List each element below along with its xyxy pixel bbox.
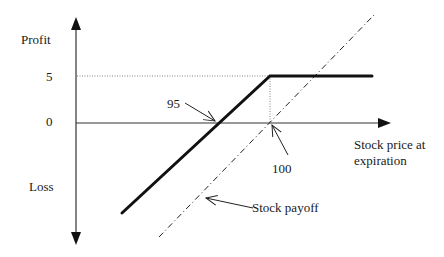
- y-axis: [71, 17, 81, 245]
- profit-line: [122, 76, 372, 213]
- arrow-up-icon: [71, 17, 81, 30]
- x-axis-label-line1: Stock price at: [354, 137, 425, 152]
- x-axis: [76, 118, 391, 128]
- x-axis-label-line2: expiration: [354, 153, 407, 168]
- arrow-down-icon: [71, 232, 81, 245]
- strike-label: 100: [272, 161, 292, 176]
- y-axis-top-label: Profit: [21, 32, 51, 47]
- diagram-canvas: [0, 0, 444, 257]
- stock-payoff-label: Stock payoff: [252, 200, 319, 215]
- stock-payoff-arrow: [206, 198, 253, 208]
- strike-arrow: [272, 125, 288, 155]
- y-tick-0: 0: [46, 114, 53, 129]
- payoff-diagram: Profit 5 0 Loss 95 100 Stock payoff Stoc…: [0, 0, 444, 257]
- y-tick-5: 5: [46, 69, 53, 84]
- arrow-right-icon: [378, 118, 391, 128]
- breakeven-label: 95: [167, 96, 180, 111]
- y-axis-bottom-label: Loss: [29, 179, 54, 194]
- breakeven-arrow: [185, 103, 215, 121]
